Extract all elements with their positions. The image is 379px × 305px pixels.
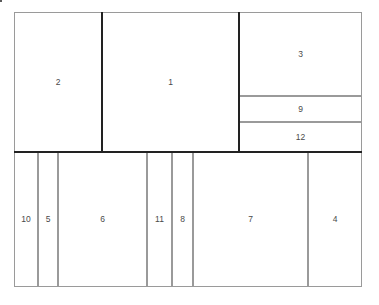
packed-rect-label: 10	[21, 215, 30, 224]
packed-rect-label: 4	[333, 215, 338, 224]
packed-rect-5: 5	[38, 152, 58, 287]
packed-rect-label: 2	[56, 78, 61, 87]
packed-rect-12: 12	[239, 122, 362, 152]
packed-rect-label: 7	[248, 215, 253, 224]
packed-rect-8: 8	[172, 152, 193, 287]
packed-rect-label: 6	[100, 215, 105, 224]
figure-caption	[0, 293, 379, 305]
separator-1-3	[238, 12, 240, 152]
packed-rect-11: 11	[147, 152, 172, 287]
packed-rect-10: 10	[14, 152, 38, 287]
packed-rect-label: 8	[180, 215, 185, 224]
diagram-outer-frame	[0, 0, 2, 2]
packed-rect-label: 5	[46, 215, 51, 224]
packing-diagram: 2 1 3 9 12 10 5 6 11 8 7 4	[0, 0, 379, 305]
packed-rect-label: 1	[168, 78, 173, 87]
packed-rect-label: 12	[296, 133, 305, 142]
packed-rect-7: 7	[193, 152, 308, 287]
packed-rect-9: 9	[239, 96, 362, 122]
packed-rect-3: 3	[239, 12, 362, 96]
packed-rect-label: 3	[298, 50, 303, 59]
main-horizontal-separator	[14, 151, 362, 153]
packed-rect-4: 4	[308, 152, 362, 287]
packed-rect-2: 2	[14, 12, 102, 152]
packed-rect-label: 9	[298, 105, 303, 114]
separator-2-1	[101, 12, 103, 152]
packed-rect-label: 11	[155, 215, 164, 224]
packed-rect-1: 1	[102, 12, 239, 152]
packed-rect-6: 6	[58, 152, 147, 287]
